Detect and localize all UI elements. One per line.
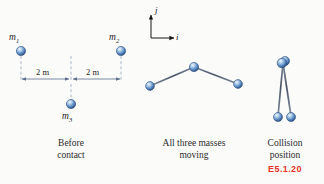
moving-ball-right bbox=[234, 80, 243, 89]
collision-ball-bottom-left bbox=[274, 113, 283, 122]
dimension-label-left: 2 m bbox=[36, 68, 49, 77]
mass-ball-m1 bbox=[16, 46, 25, 55]
panel-moving-graphics bbox=[146, 62, 243, 90]
caption-collision: Collision position bbox=[250, 138, 320, 161]
rod-left-segment bbox=[150, 67, 194, 86]
caption-before-contact: Before contact bbox=[26, 138, 116, 161]
panel-collision-graphics bbox=[274, 57, 296, 122]
moving-ball-left bbox=[146, 82, 155, 91]
panel-before-contact-graphics bbox=[16, 46, 125, 108]
mass-label-m1: m1 bbox=[9, 33, 19, 44]
axis-label-j: j bbox=[155, 6, 158, 15]
coordinate-axes bbox=[151, 15, 174, 38]
mass-ball-m3 bbox=[66, 99, 75, 108]
physics-figure: m1 m2 m3 2 m 2 m j i Before contact All … bbox=[0, 0, 324, 184]
caption-moving: All three masses moving bbox=[134, 138, 254, 161]
dimension-label-right: 2 m bbox=[86, 68, 99, 77]
collision-ball-bottom-right bbox=[287, 113, 296, 122]
rod-collision-left bbox=[278, 63, 283, 116]
axis-label-i: i bbox=[176, 33, 179, 42]
figure-tag: E5.1.20 bbox=[250, 165, 320, 174]
rod-collision-right bbox=[283, 63, 291, 116]
mass-label-m2: m2 bbox=[109, 33, 119, 44]
mass-ball-m2 bbox=[116, 46, 125, 55]
moving-ball-apex bbox=[189, 62, 198, 71]
mass-label-m3: m3 bbox=[62, 112, 72, 123]
collision-ball-top bbox=[277, 58, 287, 68]
rod-right-segment bbox=[194, 67, 238, 84]
